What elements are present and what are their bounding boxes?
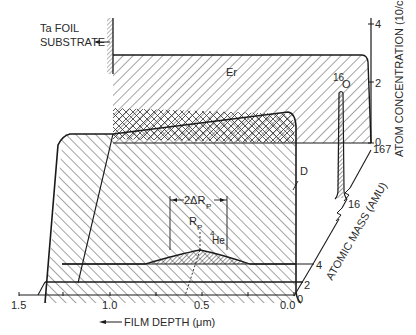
mass-tick-0: 0 — [297, 293, 303, 305]
oxygen-symbol: O — [342, 78, 351, 90]
depth-profile-diagram: Ta FOIL SUBSTRATE Er D 16 O 2ΔR P R P — [0, 0, 416, 335]
mass-tick-2: 2 — [304, 279, 310, 291]
mass-axis-label: ATOMIC MASS (AMU) — [323, 180, 389, 282]
mass-tick-16: 16 — [348, 198, 360, 210]
concentration-axis-label: ATOM CONCENTRATION (10/cm3) — [391, 0, 405, 157]
straggling-label: 2ΔR — [184, 194, 205, 206]
straggling-subscript: P — [206, 202, 211, 211]
svg-text:ATOM CONCENTRATION (10/cm3): ATOM CONCENTRATION (10/cm3) — [391, 0, 405, 157]
erbium-label: Er — [226, 66, 237, 78]
range-label: R — [189, 215, 197, 227]
concentration-tick-2: 2 — [375, 77, 381, 89]
depth-axis-label: FILM DEPTH (μm) — [124, 316, 215, 328]
substrate-label-line2: SUBSTRATE — [40, 36, 105, 48]
concentration-tick-4: 4 — [375, 18, 381, 30]
range-subscript: P — [197, 223, 202, 232]
ta-foil-substrate — [107, 18, 113, 74]
depth-tick-1.0: 1.0 — [102, 299, 117, 311]
concentration-tick-0: 0 — [375, 136, 381, 148]
depth-tick-0.0: 0.0 — [280, 299, 295, 311]
mass-tick-4: 4 — [316, 259, 322, 271]
depth-direction-arrow — [99, 320, 122, 324]
depth-tick-0.5: 0.5 — [194, 299, 209, 311]
depth-tick-1.5: 1.5 — [11, 299, 26, 311]
substrate-label-line1: Ta FOIL — [40, 22, 79, 34]
deuterium-profile — [45, 112, 301, 303]
helium-symbol: He — [212, 235, 225, 246]
deuterium-label: D — [300, 165, 308, 177]
